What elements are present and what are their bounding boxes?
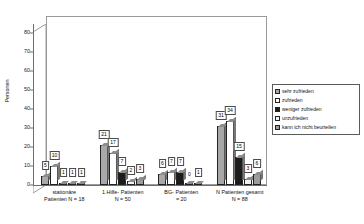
bar-groups: 51011121177236770131341536 bbox=[33, 24, 267, 185]
bar bbox=[158, 174, 166, 185]
bar-slot: 34 bbox=[226, 24, 235, 185]
bar-slot: 7 bbox=[118, 24, 127, 185]
bar-top-cap bbox=[137, 177, 146, 180]
bar-chart: Personen 01020304050607080 5101112117723… bbox=[0, 0, 364, 224]
bar bbox=[226, 121, 234, 185]
bar-slot: 0 bbox=[185, 24, 194, 185]
bar-slot: 21 bbox=[100, 24, 109, 185]
bar-slot: 1 bbox=[194, 24, 203, 185]
x-label-line-1: N Patienten gesamt bbox=[216, 189, 263, 195]
bar-value-label: 0 bbox=[187, 171, 193, 178]
bar bbox=[50, 166, 58, 185]
bar bbox=[253, 174, 261, 185]
y-axis-title: Personen bbox=[4, 79, 10, 102]
bar-group: 2117723 bbox=[100, 24, 145, 185]
bar bbox=[127, 181, 135, 185]
bar-value-label: 6 bbox=[253, 159, 261, 168]
bar-slot: 7 bbox=[167, 24, 176, 185]
x-axis-labels: stationärePatienten N = 181.Hilfe- Patie… bbox=[33, 189, 267, 221]
bar-value-label: 1 bbox=[60, 168, 68, 177]
bar-slot: 10 bbox=[50, 24, 59, 185]
bar bbox=[185, 183, 193, 185]
bar bbox=[109, 153, 117, 185]
bar bbox=[136, 179, 144, 185]
legend-item[interactable]: zufrieden bbox=[275, 96, 357, 105]
x-label-line-1: 1.Hilfe- Patienten bbox=[102, 189, 143, 195]
legend-item-label: zufrieden bbox=[282, 98, 303, 103]
legend-item[interactable]: unzufrieden bbox=[275, 114, 357, 123]
bar-value-label: 6 bbox=[159, 159, 167, 168]
chart-legend: sehr zufriedenzufriedenweniger zufrieden… bbox=[272, 84, 360, 135]
bar-slot: 3 bbox=[136, 24, 145, 185]
legend-swatch-icon bbox=[275, 89, 280, 94]
bar-value-label: 7 bbox=[118, 157, 126, 166]
bar bbox=[176, 172, 184, 185]
bar bbox=[41, 176, 49, 185]
bar bbox=[244, 179, 252, 185]
legend-swatch-icon bbox=[275, 116, 280, 121]
legend-item-label: sehr zufrieden bbox=[282, 89, 314, 94]
x-axis-category-label: N Patienten gesamtN = 88 bbox=[201, 189, 280, 204]
bar-value-label: 2 bbox=[127, 166, 135, 175]
bar-value-label: 7 bbox=[168, 157, 176, 166]
bar-group: 31341536 bbox=[217, 24, 262, 185]
legend-item-label: unzufrieden bbox=[282, 116, 308, 121]
x-label-line-1: stationäre bbox=[52, 189, 76, 195]
bar-value-label: 3 bbox=[136, 164, 144, 173]
bar bbox=[235, 157, 243, 185]
bar-value-label: 1 bbox=[78, 168, 86, 177]
bar-slot: 15 bbox=[235, 24, 244, 185]
bar-slot: 1 bbox=[68, 24, 77, 185]
bar-slot: 2 bbox=[127, 24, 136, 185]
bar bbox=[100, 145, 108, 185]
bar-slot: 1 bbox=[77, 24, 86, 185]
legend-swatch-icon bbox=[275, 98, 280, 103]
bar-value-label: 7 bbox=[177, 157, 185, 166]
bar-top-cap bbox=[78, 181, 87, 184]
legend-item-label: kann ich nicht beurteilen bbox=[282, 125, 336, 130]
bar-slot: 31 bbox=[217, 24, 226, 185]
bar-slot: 5 bbox=[41, 24, 50, 185]
bar-value-label: 3 bbox=[244, 164, 252, 173]
bar bbox=[68, 183, 76, 185]
bar-value-label: 1 bbox=[69, 168, 77, 177]
bar-slot: 3 bbox=[244, 24, 253, 185]
bar-slot: 1 bbox=[59, 24, 68, 185]
bar-top-cap bbox=[195, 181, 204, 184]
bar-slot: 6 bbox=[253, 24, 262, 185]
bar-slot: 7 bbox=[176, 24, 185, 185]
legend-item[interactable]: kann ich nicht beurteilen bbox=[275, 123, 357, 132]
bar-value-label: 5 bbox=[42, 161, 50, 170]
bar-slot: 17 bbox=[109, 24, 118, 185]
bar bbox=[59, 183, 67, 185]
bar-slot: 6 bbox=[158, 24, 167, 185]
legend-item[interactable]: weniger zufrieden bbox=[275, 105, 357, 114]
legend-item[interactable]: sehr zufrieden bbox=[275, 87, 357, 96]
bar bbox=[217, 126, 225, 185]
bar-group: 67701 bbox=[158, 24, 203, 185]
bar-value-label: 1 bbox=[195, 168, 203, 177]
x-label-line-1: BG- Patienten bbox=[164, 189, 198, 195]
bar bbox=[167, 172, 175, 185]
legend-item-label: weniger zufrieden bbox=[282, 107, 321, 112]
bar-group: 510111 bbox=[41, 24, 86, 185]
legend-swatch-icon bbox=[275, 125, 280, 130]
bar bbox=[118, 172, 126, 185]
bar bbox=[194, 183, 202, 185]
x-axis-line bbox=[33, 185, 267, 186]
legend-swatch-icon bbox=[275, 107, 280, 112]
bar bbox=[77, 183, 85, 185]
x-label-line-2: N = 88 bbox=[201, 196, 280, 203]
